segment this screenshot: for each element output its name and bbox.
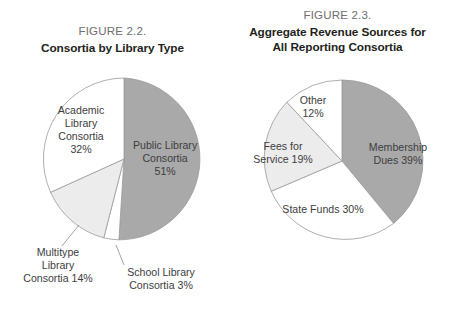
label-academic-line2: Library: [42, 117, 120, 130]
label-other: Other 12%: [283, 94, 343, 120]
label-fees-for-service: Fees for Service 19%: [238, 140, 328, 166]
label-other-line2: 12%: [283, 107, 343, 120]
label-membership-dues: Membership Dues 39%: [351, 141, 445, 167]
label-academic-line1: Academic: [42, 104, 120, 117]
label-other-line1: Other: [283, 94, 343, 107]
label-state-funds: State Funds 30%: [268, 203, 378, 216]
label-public-line1: Public Library: [133, 139, 197, 152]
label-multitype-line1: Multitype: [8, 246, 108, 259]
label-school-library-consortia: School Library Consortia 3%: [111, 266, 211, 292]
label-academic-line4: 32%: [42, 143, 120, 156]
leader-line-school: [116, 245, 124, 265]
label-public-library-consortia: Public Library Consortia 51%: [133, 139, 197, 178]
leader-line-multitype: [62, 225, 79, 246]
label-multitype-line3: Consortia 14%: [8, 272, 108, 285]
figures-page: FIGURE 2.2. Consortia by Library Type Pu…: [0, 0, 450, 316]
label-public-line3: 51%: [133, 165, 197, 178]
label-membership-line1: Membership: [351, 141, 445, 154]
label-membership-line2: Dues 39%: [351, 154, 445, 167]
label-multitype-line2: Library: [8, 259, 108, 272]
figure-2-3-panel: FIGURE 2.3. Aggregate Revenue Sources fo…: [225, 0, 450, 316]
label-academic-library-consortia: Academic Library Consortia 32%: [42, 104, 120, 156]
label-multitype-library-consortia: Multitype Library Consortia 14%: [8, 246, 108, 285]
label-fees-line1: Fees for: [238, 140, 328, 153]
label-academic-line3: Consortia: [42, 130, 120, 143]
label-state-funds-line1: State Funds 30%: [268, 203, 378, 216]
label-fees-line2: Service 19%: [238, 153, 328, 166]
figure-2-2-panel: FIGURE 2.2. Consortia by Library Type Pu…: [0, 0, 225, 316]
label-school-line2: Consortia 3%: [111, 279, 211, 292]
label-public-line2: Consortia: [133, 152, 197, 165]
label-school-line1: School Library: [111, 266, 211, 279]
